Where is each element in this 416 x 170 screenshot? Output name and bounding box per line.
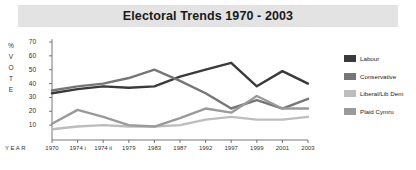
y-axis-tick-labels: 70605040302010 [18,36,36,146]
legend-swatch-icon [344,55,356,62]
x-tick-label: 1983 [148,145,161,151]
y-axis-title-char: T [6,73,16,84]
y-tick-label: 50 [20,67,36,74]
page-title: Electoral Trends 1970 - 2003 [18,6,398,26]
y-axis-title-char: V [6,51,16,62]
y-tick-label: 20 [20,108,36,115]
legend-swatch-icon [344,90,356,97]
y-axis-title-char: % [6,40,16,51]
legend-item[interactable]: Labour [344,52,414,65]
legend-swatch-icon [344,108,356,115]
x-tick-label: 1979 [122,145,135,151]
y-tick-label: 40 [20,81,36,88]
legend-label: Conservative [360,73,396,80]
y-axis-title: %VOTE [6,40,16,95]
legend-item[interactable]: Conservative [344,70,414,83]
legend-label: Labour [360,55,379,62]
y-tick-label: 10 [20,122,36,129]
y-tick-label: 60 [20,53,36,60]
legend-item[interactable]: Liberal/Lib Dem [344,87,414,100]
x-tick-label: 2001 [276,145,289,151]
x-tick-label: 1987 [173,145,186,151]
x-tick-label: 1997 [225,145,238,151]
x-tick-label: 1992 [199,145,212,151]
legend-swatch-icon [344,73,356,80]
legend-label: Plaid Cymru [360,108,394,115]
series-line-plaid-cymru [52,96,308,126]
x-tick-label: 1974 ii [94,145,112,151]
y-tick-label: 70 [20,39,36,46]
legend-item[interactable]: Plaid Cymru [344,105,414,118]
series-line-labour [52,63,308,93]
x-axis-tick-labels: 19701974 i1974 ii19791983198719921997199… [38,145,310,157]
x-tick-label: 1999 [250,145,263,151]
electoral-trends-chart: Electoral Trends 1970 - 2003 %VOTE 70605… [0,0,416,170]
y-axis-title-char: E [6,84,16,95]
x-tick-label: 1974 i [69,145,85,151]
y-tick-label: 30 [20,94,36,101]
x-axis-title: YEAR [5,145,27,151]
x-tick-label: 2003 [301,145,314,151]
plot-lines [38,38,310,143]
y-axis-title-char: O [6,62,16,73]
legend-label: Liberal/Lib Dem [360,90,403,97]
plot-area [38,38,310,143]
x-tick-label: 1970 [45,145,58,151]
chart-legend: LabourConservativeLiberal/Lib DemPlaid C… [344,52,414,122]
